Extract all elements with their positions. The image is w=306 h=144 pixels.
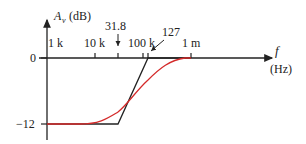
x-tick-label-1k: 1 k <box>48 36 63 50</box>
x-axis-title: f <box>275 43 281 58</box>
y-tick-label-0: 0 <box>30 51 36 65</box>
y-axis-title-unit: (dB) <box>69 9 91 23</box>
bode-plot: 0 −12 A v (dB) 1 k 10 k 100 k 1 m 31.8 1… <box>0 0 306 144</box>
x-tick-label-100k: 100 k <box>128 36 155 50</box>
y-tick-label-minus12: −12 <box>16 117 35 131</box>
x-tick-label-10k: 10 k <box>84 36 105 50</box>
x-tick-label-1m: 1 m <box>182 36 201 50</box>
actual-response-curve <box>47 58 191 124</box>
asymptotic-line <box>47 58 191 124</box>
y-axis-title-sub: v <box>62 16 66 25</box>
x-axis-unit: (Hz) <box>270 62 292 76</box>
annotation-127: 127 <box>162 25 180 39</box>
y-axis-title-main: A <box>53 9 62 23</box>
annotation-31.8: 31.8 <box>105 19 126 33</box>
